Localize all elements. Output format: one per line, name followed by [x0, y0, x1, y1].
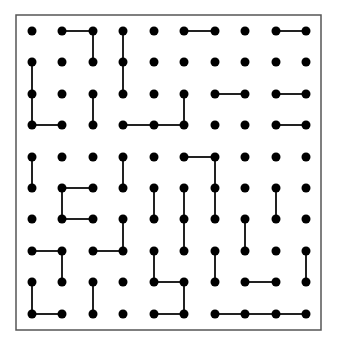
grid-dot[interactable]	[241, 278, 250, 287]
grid-dot[interactable]	[241, 58, 250, 67]
grid-dot[interactable]	[211, 58, 220, 67]
grid-dot[interactable]	[272, 278, 281, 287]
grid-dot[interactable]	[150, 184, 159, 193]
grid-dot[interactable]	[58, 278, 67, 287]
grid-dot[interactable]	[119, 90, 128, 99]
grid-dot[interactable]	[241, 90, 250, 99]
grid-dot[interactable]	[211, 310, 220, 319]
grid-dot[interactable]	[180, 90, 189, 99]
grid-dot[interactable]	[302, 247, 311, 256]
grid-dot[interactable]	[272, 215, 281, 224]
grid-dot[interactable]	[241, 27, 250, 36]
grid-dot[interactable]	[302, 184, 311, 193]
grid-dot[interactable]	[150, 278, 159, 287]
grid-dot[interactable]	[241, 153, 250, 162]
grid-dot[interactable]	[211, 121, 220, 130]
grid-dot[interactable]	[272, 58, 281, 67]
grid-dot[interactable]	[58, 58, 67, 67]
grid-dot[interactable]	[241, 121, 250, 130]
grid-dot[interactable]	[119, 247, 128, 256]
grid-dot[interactable]	[150, 310, 159, 319]
grid-dot[interactable]	[272, 121, 281, 130]
grid-dot[interactable]	[272, 310, 281, 319]
grid-dot[interactable]	[211, 215, 220, 224]
grid-dot[interactable]	[302, 215, 311, 224]
grid-dot[interactable]	[58, 153, 67, 162]
grid-dot[interactable]	[272, 27, 281, 36]
grid-dot[interactable]	[302, 27, 311, 36]
grid-dot[interactable]	[211, 247, 220, 256]
grid-dot[interactable]	[89, 215, 98, 224]
grid-dot[interactable]	[28, 184, 37, 193]
grid-dot[interactable]	[180, 184, 189, 193]
grid-dot[interactable]	[28, 153, 37, 162]
grid-dot[interactable]	[89, 184, 98, 193]
grid-dot[interactable]	[119, 121, 128, 130]
grid-dot[interactable]	[89, 310, 98, 319]
grid-dot[interactable]	[241, 310, 250, 319]
grid-dot[interactable]	[211, 153, 220, 162]
grid-dot[interactable]	[89, 27, 98, 36]
grid-dot[interactable]	[180, 27, 189, 36]
grid-dot[interactable]	[150, 90, 159, 99]
grid-dot[interactable]	[58, 27, 67, 36]
grid-dot[interactable]	[241, 215, 250, 224]
grid-dot[interactable]	[180, 215, 189, 224]
grid-dot[interactable]	[272, 153, 281, 162]
grid-dot[interactable]	[89, 153, 98, 162]
grid-dot[interactable]	[272, 247, 281, 256]
grid-dot[interactable]	[302, 278, 311, 287]
grid-dot[interactable]	[89, 121, 98, 130]
grid-dot[interactable]	[150, 215, 159, 224]
grid-dot[interactable]	[302, 90, 311, 99]
grid-dot[interactable]	[302, 153, 311, 162]
grid-dot[interactable]	[119, 215, 128, 224]
grid-dot[interactable]	[302, 310, 311, 319]
grid-dot[interactable]	[58, 310, 67, 319]
grid-dot[interactable]	[119, 310, 128, 319]
grid-dot[interactable]	[241, 247, 250, 256]
grid-dot[interactable]	[119, 58, 128, 67]
grid-dot[interactable]	[119, 27, 128, 36]
grid-dot[interactable]	[89, 90, 98, 99]
grid-dot[interactable]	[58, 90, 67, 99]
grid-dot[interactable]	[211, 27, 220, 36]
grid-dot[interactable]	[58, 215, 67, 224]
grid-dot[interactable]	[211, 278, 220, 287]
grid-dot[interactable]	[58, 247, 67, 256]
grid-dot[interactable]	[119, 153, 128, 162]
grid-dot[interactable]	[180, 153, 189, 162]
grid-dot[interactable]	[89, 278, 98, 287]
grid-dot[interactable]	[28, 310, 37, 319]
grid-dot[interactable]	[28, 215, 37, 224]
grid-dot[interactable]	[180, 58, 189, 67]
grid-dot[interactable]	[150, 153, 159, 162]
grid-dot[interactable]	[89, 247, 98, 256]
grid-dot[interactable]	[119, 278, 128, 287]
grid-dot[interactable]	[180, 121, 189, 130]
grid-dot[interactable]	[28, 278, 37, 287]
grid-dot[interactable]	[119, 184, 128, 193]
grid-dot[interactable]	[150, 247, 159, 256]
grid-dot[interactable]	[58, 184, 67, 193]
grid-dot[interactable]	[272, 90, 281, 99]
grid-dot[interactable]	[28, 90, 37, 99]
grid-dot[interactable]	[28, 27, 37, 36]
grid-dot[interactable]	[302, 121, 311, 130]
grid-dot[interactable]	[28, 121, 37, 130]
grid-dot[interactable]	[180, 310, 189, 319]
grid-dot[interactable]	[89, 58, 98, 67]
grid-dot[interactable]	[28, 58, 37, 67]
grid-dot[interactable]	[211, 184, 220, 193]
grid-dot[interactable]	[180, 278, 189, 287]
grid-dot[interactable]	[272, 184, 281, 193]
grid-dot[interactable]	[28, 247, 37, 256]
grid-dot[interactable]	[58, 121, 67, 130]
grid-dot[interactable]	[150, 27, 159, 36]
grid-dot[interactable]	[211, 90, 220, 99]
grid-dot[interactable]	[302, 58, 311, 67]
grid-dot[interactable]	[150, 121, 159, 130]
grid-dot[interactable]	[180, 247, 189, 256]
grid-dot[interactable]	[241, 184, 250, 193]
grid-dot[interactable]	[150, 58, 159, 67]
